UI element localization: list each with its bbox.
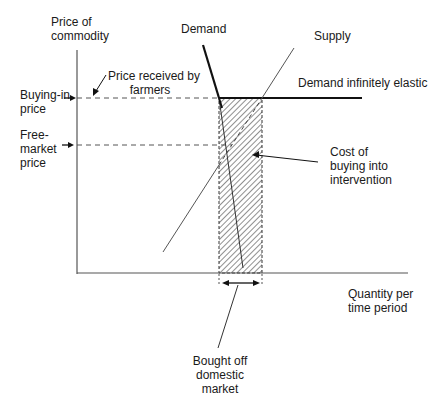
demand-label: Demand — [181, 22, 226, 36]
arrowhead-icon — [222, 280, 229, 286]
arrowhead-icon — [93, 88, 99, 96]
buying-in-price-label: Buying-in price — [20, 88, 70, 116]
buying-in-line2: price — [20, 102, 70, 116]
diagram-canvas — [0, 0, 431, 410]
bought-line3: market — [180, 382, 260, 396]
bought-line1: Bought off — [180, 354, 260, 368]
cost-line3: intervention — [330, 173, 392, 187]
bought-line2: domestic — [180, 368, 260, 382]
cost-label: Cost of buying into intervention — [330, 145, 392, 187]
price-received-line1: Price received by — [108, 69, 192, 83]
supply-curve-lower — [163, 165, 219, 252]
free-market-line3: price — [20, 156, 57, 170]
bought-leader-line — [218, 285, 238, 348]
arrowhead-icon — [68, 142, 74, 148]
price-received-line2: farmers — [108, 83, 192, 97]
demand-curve-upper — [203, 45, 219, 98]
y-axis-label: Price of commodity — [51, 15, 109, 43]
free-market-price-label: Free- market price — [20, 128, 57, 170]
buying-in-line1: Buying-in — [20, 88, 70, 102]
cost-arrow — [256, 155, 318, 162]
y-axis-label-line2: commodity — [51, 29, 109, 43]
y-axis-label-line1: Price of — [51, 15, 109, 29]
supply-label: Supply — [314, 29, 351, 43]
arrowhead-icon — [70, 95, 76, 101]
free-market-line1: Free- — [20, 128, 57, 142]
x-axis-label-line2: time period — [348, 301, 413, 315]
bought-off-label: Bought off domestic market — [180, 354, 260, 396]
price-received-arrow — [96, 75, 106, 91]
x-axis-label-line1: Quantity per — [348, 287, 413, 301]
demand-elastic-label: Demand infinitely elastic — [298, 76, 427, 90]
supply-curve-upper — [262, 48, 294, 98]
price-received-label: Price received by farmers — [108, 69, 192, 97]
cost-line1: Cost of — [330, 145, 392, 159]
x-axis-label: Quantity per time period — [348, 287, 413, 315]
cost-line2: buying into — [330, 159, 392, 173]
free-market-line2: market — [20, 142, 57, 156]
arrowhead-icon — [253, 280, 260, 286]
